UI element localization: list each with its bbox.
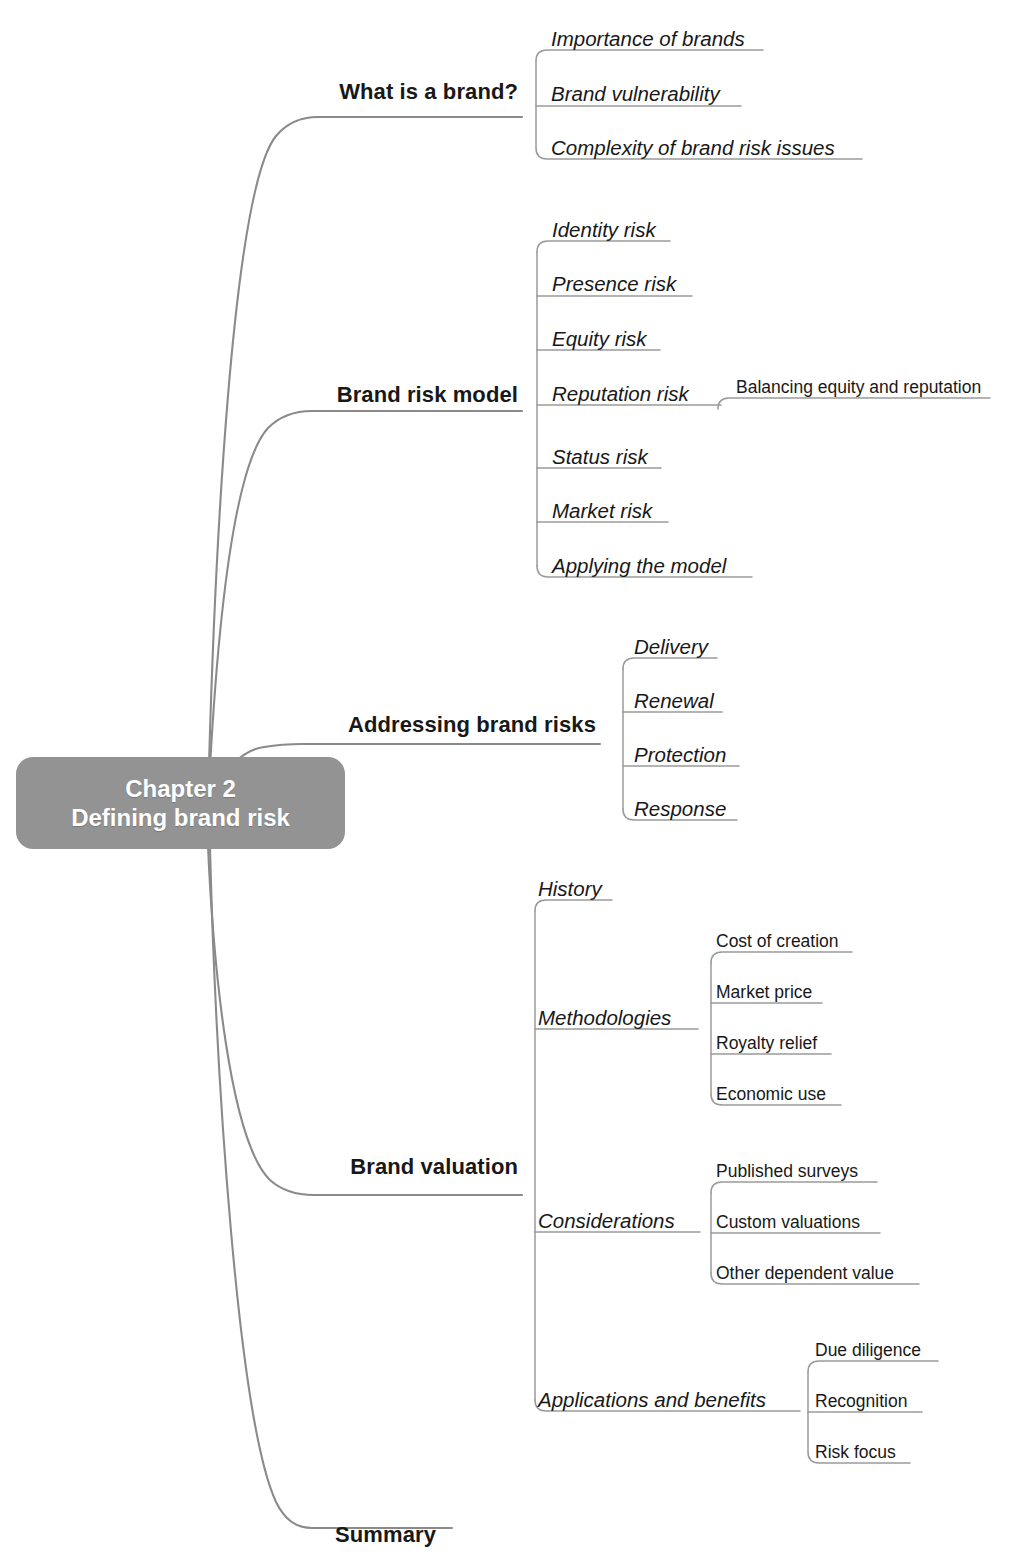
node-label-considerations[interactable]: Considerations <box>538 1209 675 1233</box>
node-label-presence-risk[interactable]: Presence risk <box>552 272 676 296</box>
node-label-economic-use[interactable]: Economic use <box>716 1084 826 1105</box>
branch-label-brand-valuation[interactable]: Brand valuation <box>0 1154 518 1180</box>
node-label-other-dependent-value[interactable]: Other dependent value <box>716 1263 894 1284</box>
node-label-history[interactable]: History <box>538 877 602 901</box>
center-node-line1: Chapter 2 <box>71 774 290 803</box>
node-label-custom-valuations[interactable]: Custom valuations <box>716 1212 860 1233</box>
node-label-recognition[interactable]: Recognition <box>815 1391 907 1412</box>
node-label-equity-risk[interactable]: Equity risk <box>552 327 647 351</box>
node-label-status-risk[interactable]: Status risk <box>552 445 648 469</box>
branch-label-summary[interactable]: Summary <box>0 1522 436 1548</box>
node-label-market-price[interactable]: Market price <box>716 982 812 1003</box>
node-label-applications-and-benefits[interactable]: Applications and benefits <box>538 1388 766 1412</box>
node-label-delivery[interactable]: Delivery <box>634 635 708 659</box>
node-label-balancing-equity-and-reputation[interactable]: Balancing equity and reputation <box>736 377 981 398</box>
node-label-brand-vulnerability[interactable]: Brand vulnerability <box>551 82 720 106</box>
trunk-brand-valuation <box>208 846 522 1195</box>
node-label-risk-focus[interactable]: Risk focus <box>815 1442 896 1463</box>
node-label-renewal[interactable]: Renewal <box>634 689 714 713</box>
sub-methodologies-elbow-0 <box>711 952 852 963</box>
trunk-brand-risk-model <box>208 411 522 806</box>
center-node[interactable]: Chapter 2 Defining brand risk <box>16 757 345 849</box>
node-label-importance-of-brands[interactable]: Importance of brands <box>551 27 745 51</box>
node-label-response[interactable]: Response <box>634 797 726 821</box>
sub-elbow-balancing-equity-and-reputation <box>718 398 990 409</box>
node-label-complexity-of-brand-risk-issues[interactable]: Complexity of brand risk issues <box>551 136 835 160</box>
addressing-brand-risks-elbow-0 <box>623 658 717 669</box>
node-label-identity-risk[interactable]: Identity risk <box>552 218 656 242</box>
node-label-methodologies[interactable]: Methodologies <box>538 1006 671 1030</box>
node-label-applying-the-model[interactable]: Applying the model <box>552 554 726 578</box>
node-label-protection[interactable]: Protection <box>634 743 726 767</box>
node-label-reputation-risk[interactable]: Reputation risk <box>552 382 689 406</box>
sub-considerations-elbow-0 <box>711 1182 877 1193</box>
brand-valuation-elbow-0 <box>535 900 612 911</box>
brand-risk-model-elbow-0 <box>537 241 670 252</box>
node-label-due-diligence[interactable]: Due diligence <box>815 1340 921 1361</box>
branch-label-addressing-brand-risks[interactable]: Addressing brand risks <box>0 712 596 738</box>
center-node-line2: Defining brand risk <box>71 803 290 832</box>
branch-label-what-is-a-brand[interactable]: What is a brand? <box>0 79 518 105</box>
sub-applications-and-benefits-elbow-0 <box>808 1361 938 1372</box>
trunk-what-is-a-brand <box>208 117 522 803</box>
node-label-market-risk[interactable]: Market risk <box>552 499 652 523</box>
node-label-cost-of-creation[interactable]: Cost of creation <box>716 931 839 952</box>
trunk-summary <box>210 848 452 1528</box>
branch-label-brand-risk-model[interactable]: Brand risk model <box>0 382 518 408</box>
node-label-royalty-relief[interactable]: Royalty relief <box>716 1033 817 1054</box>
what-is-a-brand-elbow-0 <box>536 50 763 61</box>
node-label-published-surveys[interactable]: Published surveys <box>716 1161 858 1182</box>
mind-map-canvas: Chapter 2 Defining brand risk What is a … <box>0 0 1025 1566</box>
